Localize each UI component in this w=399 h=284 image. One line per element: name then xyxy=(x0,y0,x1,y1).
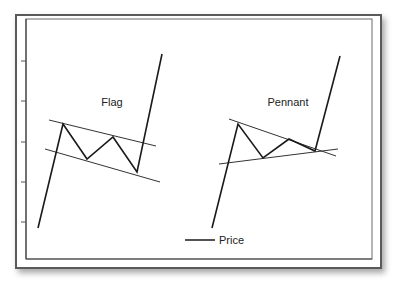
price-line xyxy=(212,56,340,228)
trendline xyxy=(45,149,160,182)
plot-area xyxy=(26,19,372,259)
chart-plot: Flag Pennant Price xyxy=(0,0,399,284)
price-line xyxy=(38,54,162,228)
flag-label: Flag xyxy=(101,96,122,108)
pennant-label: Pennant xyxy=(268,96,309,108)
trendline xyxy=(49,120,156,146)
trendline xyxy=(219,149,338,164)
trendline xyxy=(229,119,336,156)
legend: Price xyxy=(185,234,244,246)
trendlines xyxy=(45,119,338,182)
legend-price-label: Price xyxy=(219,234,244,246)
price-series xyxy=(38,54,340,228)
y-axis-ticks xyxy=(21,61,26,222)
